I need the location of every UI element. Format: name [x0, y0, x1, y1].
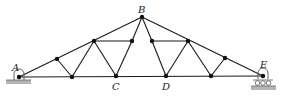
joint: [55, 57, 59, 61]
top-chord-left: [19, 17, 142, 77]
web-member: [94, 41, 116, 76]
joint-d: [164, 74, 168, 78]
truss-diagram: A B C D E: [0, 0, 283, 97]
joint: [150, 39, 154, 43]
top-chord-right: [142, 17, 263, 76]
web-member: [116, 41, 132, 76]
joint: [223, 56, 227, 60]
web-member: [166, 41, 188, 76]
web-member: [188, 41, 211, 76]
truss-members: [19, 17, 263, 77]
web-member: [72, 41, 94, 77]
joint-e: [261, 74, 265, 78]
joint: [186, 39, 190, 43]
label-c: C: [112, 81, 120, 92]
web-member: [152, 41, 166, 76]
joint: [70, 75, 74, 79]
joint-b: [140, 15, 144, 19]
joint-a: [17, 75, 21, 79]
truss-joints: [17, 15, 265, 79]
label-b: B: [137, 4, 145, 15]
label-a: A: [11, 62, 19, 73]
roller-support-e: [251, 68, 276, 90]
joint: [92, 39, 96, 43]
label-e: E: [259, 59, 268, 70]
joint: [209, 74, 213, 78]
web-member: [211, 58, 225, 76]
bottom-chord: [19, 76, 263, 77]
joint: [130, 39, 134, 43]
web-member: [57, 59, 72, 77]
joint-c: [114, 74, 118, 78]
label-d: D: [161, 81, 170, 92]
